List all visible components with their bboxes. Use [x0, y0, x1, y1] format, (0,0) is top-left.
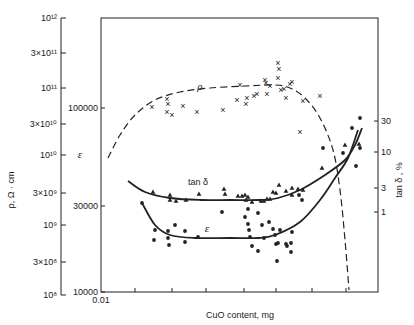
epsilon-point: [246, 207, 250, 211]
chart: ××××××××××××××××××××××××××××× 10¹²3×10¹¹…: [0, 0, 414, 325]
epsilon-point: [243, 215, 247, 219]
tan-delta-point: [197, 192, 202, 196]
rho-point: ×: [220, 105, 225, 115]
rho-tick-label: 10⁸: [43, 290, 57, 300]
rho-point: ×: [300, 96, 305, 106]
tan-delta-tick-label: 1: [381, 207, 386, 217]
tan-delta-point: [343, 143, 348, 147]
epsilon-point: [300, 198, 304, 202]
tan-delta-point: [284, 189, 289, 193]
curve-annotation: ρ: [196, 80, 202, 92]
tan-delta-tick-label: 10: [381, 147, 391, 157]
rho-point: ×: [243, 99, 248, 109]
rho-tick-label: 10¹¹: [41, 83, 57, 93]
epsilon-point: [246, 222, 250, 226]
epsilon-point: [220, 210, 224, 214]
epsilon-point: [275, 259, 279, 263]
epsilon-point: [140, 201, 144, 205]
x-tick-label: 0.01: [92, 295, 110, 305]
tan-delta-point: [223, 192, 228, 196]
epsilon-point: [248, 235, 252, 239]
rho-point: ×: [254, 89, 259, 99]
epsilon-point: [250, 244, 254, 248]
tan-delta-point: [277, 183, 282, 187]
epsilon-point: [167, 243, 171, 247]
rho-tick-label: 10¹⁰: [40, 150, 57, 160]
rho-point: ×: [297, 127, 302, 137]
plot-frame: [101, 18, 378, 292]
rho-point: ×: [194, 107, 199, 117]
rho-point: ×: [180, 101, 185, 111]
tan-delta-point: [236, 194, 241, 198]
epsilon-point: [354, 164, 358, 168]
rho-point: ×: [275, 73, 280, 83]
epsilon-point: [341, 151, 345, 155]
epsilon-point: [166, 236, 170, 240]
epsilon-point: [183, 229, 187, 233]
tan-delta-point: [151, 190, 156, 194]
tan-delta-point: [243, 193, 248, 197]
x-axis-title: CuO content, mg: [206, 310, 274, 320]
curve-annotation: ε: [205, 222, 210, 234]
epsilon-point: [271, 227, 275, 231]
epsilon-point: [290, 230, 294, 234]
curve-epsilon: [142, 130, 358, 238]
tan-delta-point: [222, 187, 227, 191]
rho-tick-label: 3×10⁸: [33, 257, 57, 267]
tan-delta-point: [168, 193, 173, 197]
curve-annotation: tan δ: [188, 177, 208, 187]
epsilon-point: [358, 116, 362, 120]
rho-point: ×: [169, 110, 174, 120]
epsilon-point: [183, 240, 187, 244]
rho-point: ×: [317, 91, 322, 101]
epsilon-tick-label: 100000: [68, 103, 98, 113]
epsilon-point: [247, 228, 251, 232]
epsilon-point: [260, 223, 264, 227]
rho-tick-label: 3×10⁹: [33, 188, 57, 198]
curve-annotation: ε: [78, 148, 83, 160]
epsilon-point: [153, 228, 157, 232]
epsilon-point: [267, 220, 271, 224]
rho-tick-label: 3×10¹⁰: [30, 119, 57, 129]
tan-delta-point: [320, 166, 325, 170]
epsilon-point: [321, 146, 325, 150]
rho-axis-title: ρ, Ω · cm: [6, 172, 16, 209]
rho-point: ×: [234, 95, 239, 105]
epsilon-point: [350, 126, 354, 130]
tan-delta-point: [290, 186, 295, 190]
epsilon-point: [262, 236, 266, 240]
epsilon-point: [166, 229, 170, 233]
epsilon-point: [173, 223, 177, 227]
epsilon-point: [289, 250, 293, 254]
epsilon-point: [256, 211, 260, 215]
epsilon-point: [273, 233, 277, 237]
rho-tick-label: 3×10¹¹: [31, 48, 57, 58]
curve-rho: [108, 85, 349, 290]
rho-point: ×: [149, 102, 154, 112]
epsilon-point: [196, 235, 200, 239]
tan-delta-tick-label: 3: [381, 183, 386, 193]
tan-delta-point: [296, 187, 301, 191]
rho-point: ×: [289, 77, 294, 87]
tan-delta-tick-label: 30: [381, 116, 391, 126]
rho-point: ×: [267, 81, 272, 91]
epsilon-point: [358, 146, 362, 150]
epsilon-point: [289, 241, 293, 245]
epsilon-point: [278, 228, 282, 232]
tan-delta-axis-title: tan δ , %: [394, 162, 404, 198]
epsilon-point: [274, 242, 278, 246]
rho-tick-label: 10¹²: [41, 13, 57, 23]
epsilon-tick-label: 30000: [73, 201, 98, 211]
epsilon-point: [285, 244, 289, 248]
rho-point: ×: [237, 80, 242, 90]
epsilon-point: [152, 238, 156, 242]
epsilon-point: [297, 193, 301, 197]
rho-point: ×: [283, 93, 288, 103]
axis-labels: 10¹²3×10¹¹10¹¹3×10¹⁰10¹⁰3×10⁹10⁹3×10⁸10⁸…: [6, 13, 404, 320]
data-points: ×××××××××××××××××××××××××××××: [140, 58, 362, 263]
rho-tick-label: 10⁹: [43, 220, 57, 230]
fitted-curves: [108, 85, 362, 290]
epsilon-point: [256, 249, 260, 253]
